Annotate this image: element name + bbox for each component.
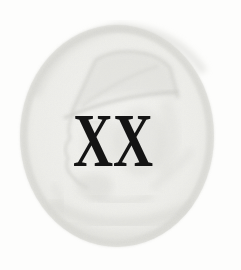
- chapter-numeral: XX: [72, 102, 152, 178]
- book-page: XX: [0, 0, 241, 270]
